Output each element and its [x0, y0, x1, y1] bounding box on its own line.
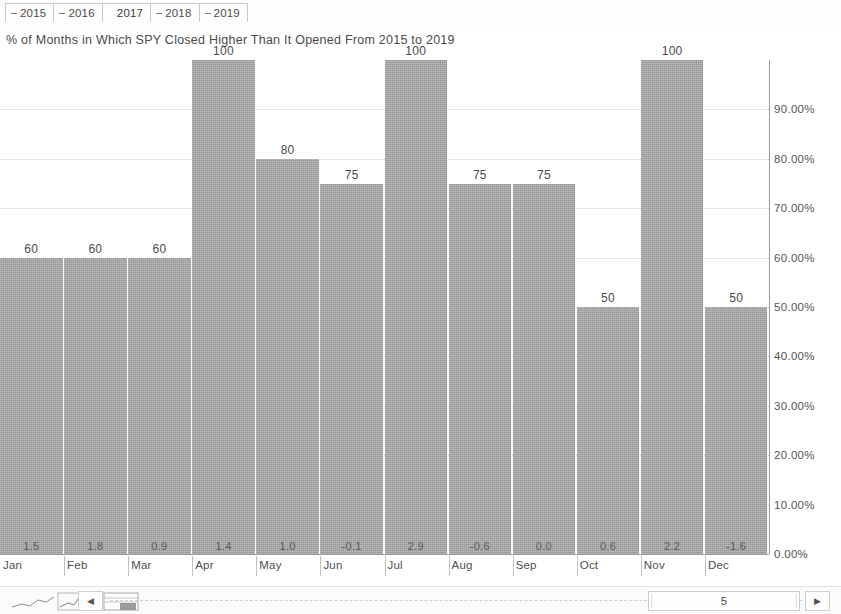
x-axis-tick-label: Oct [577, 559, 641, 571]
tab-label: 2016 [68, 7, 94, 19]
x-axis-separator [513, 556, 514, 576]
y-axis-tick-label: 60.00% [774, 252, 815, 264]
x-axis-separator [385, 556, 386, 576]
thumb-grip-right [796, 594, 797, 608]
x-axis-separator [64, 556, 65, 576]
bar-value-label: 75 [449, 168, 512, 182]
bar[interactable] [577, 307, 640, 554]
y-axis-tick-label: 20.00% [774, 449, 815, 461]
x-axis-tick-label: Mar [128, 559, 192, 571]
bar-value-label: 50 [705, 291, 768, 305]
bar-value-label: 100 [641, 44, 704, 58]
y-axis-tick-label: 50.00% [774, 301, 815, 313]
x-axis-tick-label: Apr [192, 559, 256, 571]
tab-label: 2019 [214, 7, 240, 19]
tab-2017[interactable]: 2017 [102, 3, 151, 22]
y-axis-tick-label: 10.00% [774, 499, 815, 511]
x-axis-tick-label: Dec [705, 559, 769, 571]
bar-series: 1.5601.8600.9601.41001.080-0.1752.9100-0… [0, 60, 769, 554]
tab-dash-icon [11, 13, 17, 14]
left-arrow-icon: ◀ [87, 597, 94, 606]
bar-value-label: 60 [128, 242, 191, 256]
tab-label: 2017 [117, 7, 143, 19]
tab-2016[interactable]: 2016 [53, 3, 102, 22]
bar-inner-value-label: 1.0 [256, 540, 319, 552]
bar[interactable] [513, 184, 576, 555]
x-axis-separator [192, 556, 193, 576]
bar-value-label: 80 [256, 143, 319, 157]
x-axis-separator [641, 556, 642, 576]
x-axis-separator [705, 556, 706, 576]
y-axis-tick-label: 0.00% [774, 548, 808, 560]
bar-value-label: 100 [385, 44, 448, 58]
bar-value-label: 60 [0, 242, 63, 256]
bar-value-label: 50 [577, 291, 640, 305]
right-arrow-icon: ▶ [814, 597, 821, 606]
bar-inner-value-label: -0.6 [449, 540, 512, 552]
tab-2018[interactable]: 2018 [150, 3, 199, 22]
y-axis-tick-label: 80.00% [774, 153, 815, 165]
bar-inner-value-label: -0.1 [320, 540, 383, 552]
bar-value-label: 100 [192, 44, 255, 58]
bar-value-label: 75 [320, 168, 383, 182]
scrollbar-thumb-label: 5 [721, 595, 727, 607]
bar-inner-value-label: 0.6 [577, 540, 640, 552]
bar-inner-value-label: 0.9 [128, 540, 191, 552]
chart-plot-area: 1.5601.8600.9601.41001.080-0.1752.9100-0… [0, 60, 769, 554]
bar-value-label: 60 [64, 242, 127, 256]
tab-label: 2015 [20, 7, 46, 19]
bar[interactable] [256, 159, 319, 554]
tab-label: 2018 [165, 7, 191, 19]
bar-inner-value-label: 2.2 [641, 540, 704, 552]
x-axis-tick-label: Nov [641, 559, 705, 571]
x-axis-line [0, 554, 769, 555]
x-axis-tick-label: Sep [513, 559, 577, 571]
bar[interactable] [385, 60, 448, 554]
x-axis-separator [577, 556, 578, 576]
tab-dash-icon [108, 13, 114, 14]
bar[interactable] [641, 60, 704, 554]
y-axis-tick-labels: 90.00%80.00%70.00%60.00%50.00%40.00%30.0… [774, 60, 841, 560]
scrollbar-thumb[interactable]: 5 [648, 591, 800, 611]
year-tab-strip: 2015 2016 2017 2018 2019 [0, 0, 841, 26]
bar-inner-value-label: 0.0 [513, 540, 576, 552]
bar-inner-value-label: -1.6 [705, 540, 768, 552]
x-axis-tick-label: Jul [385, 559, 449, 571]
tab-2019[interactable]: 2019 [199, 3, 248, 22]
y-axis-tick-label: 90.00% [774, 103, 815, 115]
x-axis-tick-label: Aug [449, 559, 513, 571]
x-axis-separator [449, 556, 450, 576]
bar[interactable] [128, 258, 191, 554]
tab-dash-icon [156, 13, 162, 14]
x-axis-tick-labels: JanFebMarAprMayJunJulAugSepOctNovDec [0, 556, 769, 578]
y-axis-tick-label: 40.00% [774, 350, 815, 362]
thumb-grip-left [651, 594, 652, 608]
y-axis-tick-label: 70.00% [774, 202, 815, 214]
scroll-left-button[interactable]: ◀ [78, 591, 103, 611]
x-axis-tick-label: Jun [320, 559, 384, 571]
bar-inner-value-label: 1.8 [64, 540, 127, 552]
x-axis-tick-label: May [256, 559, 320, 571]
scroll-right-button[interactable]: ▶ [805, 591, 830, 611]
bar-inner-value-label: 2.9 [385, 540, 448, 552]
x-axis-separator [256, 556, 257, 576]
tab-dash-icon [59, 13, 65, 14]
tab-2015[interactable]: 2015 [5, 3, 54, 22]
bar[interactable] [705, 307, 768, 554]
bar-value-label: 75 [513, 168, 576, 182]
x-axis-separator [128, 556, 129, 576]
x-axis-separator [320, 556, 321, 576]
x-axis-tick-label: Jan [0, 559, 64, 571]
bar-inner-value-label: 1.5 [0, 540, 63, 552]
tab-dash-icon [205, 13, 211, 14]
bar[interactable] [0, 258, 63, 554]
bar[interactable] [64, 258, 127, 554]
bar[interactable] [320, 184, 383, 555]
sheet-navigation-bar: ◀ 5 ▶ [0, 586, 841, 614]
bar[interactable] [192, 60, 255, 554]
y-axis-line [769, 60, 770, 554]
x-axis-tick-label: Feb [64, 559, 128, 571]
bar-inner-value-label: 1.4 [192, 540, 255, 552]
y-axis-tick-label: 30.00% [774, 400, 815, 412]
bar[interactable] [449, 184, 512, 555]
